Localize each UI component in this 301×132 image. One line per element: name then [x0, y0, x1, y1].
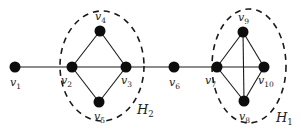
vertex-v2 [67, 62, 78, 73]
edge-v4-v3 [100, 31, 126, 67]
vertex-v7-label: v7 [205, 74, 216, 89]
vertex-v1-label: v1 [10, 76, 21, 91]
vertex-v1 [10, 62, 21, 73]
vertex-v6 [169, 62, 180, 73]
vertex-v2-label: v2 [61, 74, 72, 89]
vertex-v10-label: v10 [258, 74, 274, 89]
vertex-v10 [259, 62, 270, 73]
graph-canvas: H2H1v1v2v3v4v5v6v7v8v9v10 [0, 0, 301, 132]
subgraph-h1-label: H1 [275, 110, 293, 127]
graph-diagram: H2H1v1v2v3v4v5v6v7v8v9v10 [0, 0, 301, 132]
vertex-v8-label: v8 [239, 110, 250, 125]
vertex-v9-label: v9 [238, 11, 249, 26]
vertex-v5-label: v5 [94, 110, 105, 125]
subgraph-h1-outline [212, 9, 286, 123]
edge-v2-v5 [72, 67, 99, 102]
edge-v7-v8 [217, 67, 244, 101]
vertex-v7 [212, 62, 223, 73]
edge-v7-v9 [217, 32, 243, 67]
vertex-v9 [238, 27, 249, 38]
subgraph-h2-label: H2 [136, 102, 154, 119]
edge-v9-v8 [243, 32, 244, 101]
graph-labels: H2H1v1v2v3v4v5v6v7v8v9v10 [10, 10, 293, 127]
vertex-v3 [121, 62, 132, 73]
vertex-v8 [239, 96, 250, 107]
vertex-v5 [94, 97, 105, 108]
vertex-v4 [95, 26, 106, 37]
edge-v2-v4 [72, 31, 100, 67]
vertex-v4-label: v4 [95, 10, 106, 25]
vertex-v6-label: v6 [169, 76, 180, 91]
edge-v9-v10 [243, 32, 264, 67]
vertex-v3-label: v3 [121, 74, 132, 89]
